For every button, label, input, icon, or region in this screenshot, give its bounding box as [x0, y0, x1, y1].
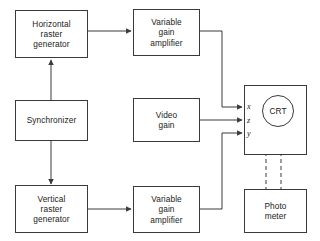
node-variable-gain-amplifier-bottom[interactable]: Variable gain amplifier — [133, 186, 200, 233]
node-variable-gain-amplifier-top[interactable]: Variable gain amplifier — [133, 9, 200, 56]
node-horizontal-raster-generator[interactable]: Horizontal raster generator — [15, 10, 88, 58]
node-variable-gain-amplifier-top-label: Variable gain amplifier — [134, 17, 199, 47]
block-diagram: Horizontal raster generator Variable gai… — [0, 0, 320, 241]
connector-amplifier-bottom-to-crt-y — [200, 133, 242, 209]
node-vertical-raster-generator-label: Vertical raster generator — [16, 194, 87, 224]
connector-amplifier-top-to-crt-x — [200, 31, 242, 107]
crt-label: CRT — [270, 106, 287, 116]
port-z-label: z — [247, 117, 250, 125]
node-horizontal-raster-generator-label: Horizontal raster generator — [16, 19, 87, 49]
node-synchronizer-label: Synchronizer — [16, 115, 87, 125]
crt-circle: CRT — [262, 95, 294, 127]
port-x-label: x — [247, 103, 251, 111]
node-photo-meter[interactable]: Photo meter — [244, 189, 307, 233]
node-photo-meter-label: Photo meter — [245, 201, 306, 221]
port-y-label: y — [247, 130, 251, 138]
node-synchronizer[interactable]: Synchronizer — [15, 100, 88, 141]
node-video-gain-label: Video gain — [134, 110, 199, 130]
node-variable-gain-amplifier-bottom-label: Variable gain amplifier — [134, 194, 199, 224]
node-vertical-raster-generator[interactable]: Vertical raster generator — [15, 185, 88, 233]
node-video-gain[interactable]: Video gain — [133, 98, 200, 142]
